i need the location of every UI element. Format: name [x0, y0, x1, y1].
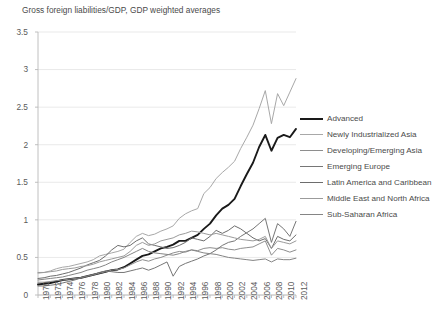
- y-tick-label: 3: [2, 65, 28, 73]
- x-tick-label: 2002: [238, 282, 246, 300]
- x-tick-label: 1990: [164, 282, 172, 300]
- x-tick-label: 2010: [287, 282, 295, 300]
- legend-swatch-icon: [300, 118, 323, 120]
- x-tick-label: 1972: [54, 282, 62, 300]
- x-tick-label: 1982: [115, 282, 123, 300]
- legend-item-6[interactable]: Sub-Saharan Africa: [300, 208, 441, 221]
- y-tick-label: 3.5: [2, 28, 28, 36]
- x-tick-label: 2012: [300, 282, 308, 300]
- x-tick-label: 2000: [226, 282, 234, 300]
- legend-label: Latin America and Caribbean: [327, 179, 431, 187]
- legend-item-5[interactable]: Middle East and North Africa: [300, 192, 441, 205]
- series-line-5: [38, 231, 296, 272]
- x-tick-label: 2004: [250, 282, 258, 300]
- x-tick-label: 1978: [91, 282, 99, 300]
- legend-label: Sub-Saharan Africa: [327, 211, 397, 219]
- legend-item-1[interactable]: Newly Industrialized Asia: [300, 128, 441, 141]
- legend-swatch-icon: [300, 134, 323, 135]
- x-tick-label: 1984: [128, 282, 136, 300]
- x-tick-label: 1994: [189, 282, 197, 300]
- y-tick-label: 1: [2, 216, 28, 224]
- y-tick-label: 2.5: [2, 103, 28, 111]
- axis-lines: [35, 32, 296, 298]
- x-tick-label: 1980: [103, 282, 111, 300]
- x-tick-label: 1974: [66, 282, 74, 300]
- y-tick-label: 0: [2, 291, 28, 299]
- legend-label: Middle East and North Africa: [327, 195, 430, 203]
- legend-swatch-icon: [300, 150, 323, 151]
- x-tick-label: 1970: [42, 282, 50, 300]
- legend-label: Newly Industrialized Asia: [327, 131, 417, 139]
- x-tick-label: 1988: [152, 282, 160, 300]
- y-tick-label: 1.5: [2, 178, 28, 186]
- x-tick-label: 1992: [177, 282, 185, 300]
- legend-swatch-icon: [300, 198, 323, 199]
- chart-legend: AdvancedNewly Industrialized AsiaDevelop…: [300, 112, 441, 224]
- legend-swatch-icon: [300, 182, 323, 183]
- x-tick-label: 2008: [275, 282, 283, 300]
- x-tick-label: 1998: [214, 282, 222, 300]
- y-tick-label: 0.5: [2, 253, 28, 261]
- legend-label: Advanced: [327, 115, 363, 123]
- series-line-1: [38, 79, 296, 274]
- legend-item-0[interactable]: Advanced: [300, 112, 441, 125]
- chart-container: Gross foreign liabilities/GDP, GDP weigh…: [0, 0, 441, 332]
- legend-item-3[interactable]: Emerging Europe: [300, 160, 441, 173]
- y-tick-label: 2: [2, 141, 28, 149]
- series-line-4: [38, 226, 296, 279]
- x-tick-label: 2006: [263, 282, 271, 300]
- legend-swatch-icon: [300, 166, 323, 167]
- x-tick-label: 1976: [78, 282, 86, 300]
- series-line-0: [38, 129, 296, 285]
- legend-label: Emerging Europe: [327, 163, 390, 171]
- legend-item-4[interactable]: Latin America and Caribbean: [300, 176, 441, 189]
- x-tick-label: 1986: [140, 282, 148, 300]
- legend-item-2[interactable]: Developing/Emerging Asia: [300, 144, 441, 157]
- x-tick-label: 1996: [201, 282, 209, 300]
- legend-swatch-icon: [300, 214, 323, 215]
- legend-label: Developing/Emerging Asia: [327, 147, 422, 155]
